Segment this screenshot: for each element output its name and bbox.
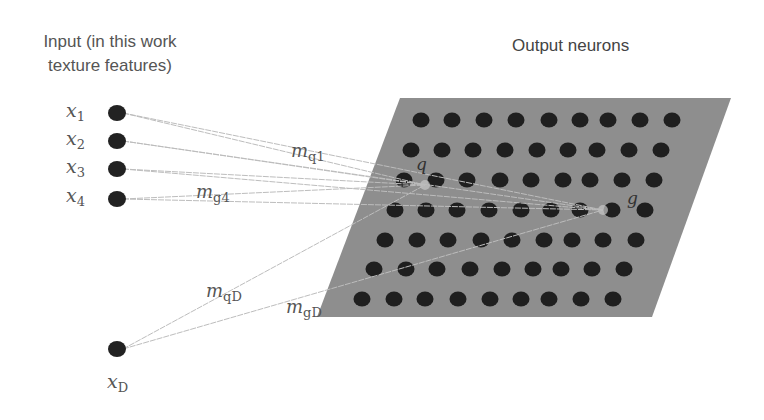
output-neuron xyxy=(541,113,558,128)
input-title-line2: texture features) xyxy=(10,54,210,78)
output-neuron xyxy=(605,292,622,307)
output-neuron xyxy=(573,292,590,307)
output-neuron xyxy=(632,113,649,128)
output-neuron xyxy=(386,292,403,307)
output-neuron xyxy=(560,143,577,158)
output-neuron xyxy=(555,173,572,188)
input-node-x4 xyxy=(108,191,126,207)
output-neuron xyxy=(494,262,511,277)
input-label-x2: x2 xyxy=(66,127,85,152)
input-title-line1: Input (in this work xyxy=(10,30,210,54)
output-neuron xyxy=(529,143,546,158)
output-title: Output neurons xyxy=(512,36,629,56)
output-neuron xyxy=(440,233,457,248)
output-neuron xyxy=(536,233,553,248)
output-neuron xyxy=(449,203,466,218)
output-neuron xyxy=(600,113,617,128)
connection-x1-q xyxy=(123,113,425,185)
input-label-x4: x4 xyxy=(66,184,85,209)
neuron-label-q: q xyxy=(416,154,427,174)
output-neuron xyxy=(462,262,479,277)
output-neuron xyxy=(481,203,498,218)
output-neuron xyxy=(564,233,581,248)
output-neuron xyxy=(497,143,514,158)
output-neuron xyxy=(653,143,670,158)
input-nodes xyxy=(108,105,126,357)
output-neuron xyxy=(418,203,435,218)
output-neuron xyxy=(646,173,663,188)
input-node-x2 xyxy=(108,133,126,149)
output-neuron xyxy=(595,233,612,248)
output-neuron xyxy=(409,233,426,248)
output-neuron xyxy=(465,143,482,158)
output-neuron xyxy=(429,262,446,277)
output-neuron xyxy=(413,113,430,128)
output-neuron xyxy=(541,292,558,307)
input-node-x1 xyxy=(108,105,126,121)
output-neuron xyxy=(482,292,499,307)
output-neuron xyxy=(513,292,530,307)
output-neuron xyxy=(664,113,681,128)
output-neuron xyxy=(354,292,371,307)
input-label-xD: xD xyxy=(107,370,128,395)
output-neuron xyxy=(434,143,451,158)
output-neuron xyxy=(616,262,633,277)
output-neuron xyxy=(523,173,540,188)
output-neuron xyxy=(377,233,394,248)
output-neuron xyxy=(525,262,542,277)
output-neuron xyxy=(459,173,476,188)
output-neuron xyxy=(508,113,525,128)
output-neuron xyxy=(513,203,530,218)
weight-label-mqD: mqD xyxy=(206,280,242,304)
weight-label-mq1: mq1 xyxy=(291,140,325,164)
output-neuron xyxy=(492,173,509,188)
output-neuron xyxy=(614,173,631,188)
weight-label-mgD: mgD xyxy=(286,296,322,320)
output-neuron xyxy=(589,143,606,158)
neuron-label-g: g xyxy=(627,188,638,208)
som-diagram: Input (in this work texture features) Ou… xyxy=(0,0,764,420)
output-neuron xyxy=(572,113,589,128)
output-neuron xyxy=(553,262,570,277)
output-neuron xyxy=(584,262,601,277)
input-label-x1: x1 xyxy=(66,99,85,124)
output-neuron xyxy=(450,292,467,307)
output-neuron xyxy=(637,203,654,218)
input-node-x3 xyxy=(108,161,126,177)
input-node-xD xyxy=(108,341,126,357)
output-neuron xyxy=(444,113,461,128)
output-neuron xyxy=(476,113,493,128)
output-neuron xyxy=(621,143,638,158)
input-title: Input (in this work texture features) xyxy=(10,30,210,78)
input-label-x3: x3 xyxy=(66,155,85,180)
weight-label-mg4: mg4 xyxy=(196,181,230,205)
output-neuron xyxy=(582,173,599,188)
output-neuron xyxy=(628,233,645,248)
output-neuron xyxy=(417,292,434,307)
